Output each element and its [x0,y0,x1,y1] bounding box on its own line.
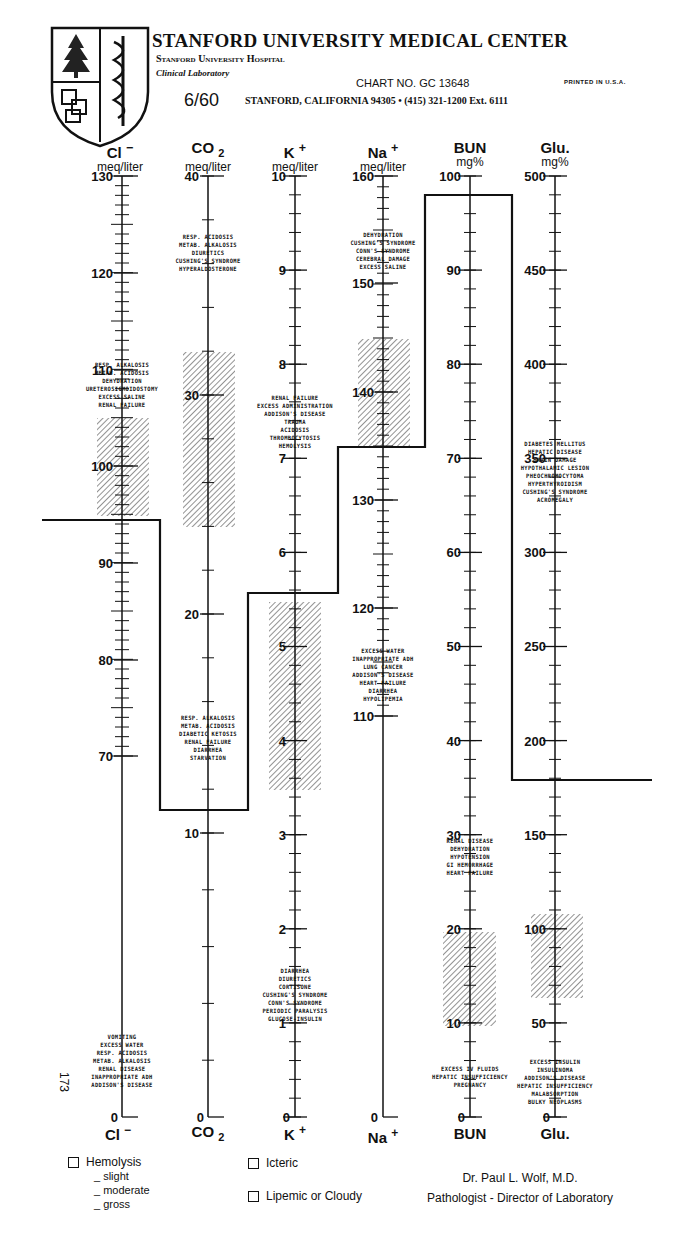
svg-text:100: 100 [524,922,546,937]
svg-text:500: 500 [524,169,546,184]
svg-text:50: 50 [447,639,461,654]
svg-text:40: 40 [447,734,461,749]
svg-text:50: 50 [532,1016,546,1031]
svg-text:200: 200 [524,734,546,749]
lipemic-option: Lipemic or Cloudy [248,1189,362,1203]
svg-text:150: 150 [352,276,374,291]
svg-text:250: 250 [524,639,546,654]
svg-text:110: 110 [353,709,374,724]
svg-text:70: 70 [447,451,461,466]
svg-text:400: 400 [524,357,546,372]
k-low-causes: DIARRHEADIURETICSCORTISONE CUSHING'S SYN… [246,967,345,1023]
svg-text:20: 20 [447,922,461,937]
na-high-causes: DEHYDRATIONCUSHING'S SYNDROMECONN'S SYND… [343,231,424,271]
svg-text:4: 4 [279,734,287,749]
svg-text:100: 100 [439,169,461,184]
column-footer-glu: Glu. [515,1125,595,1142]
svg-text:160: 160 [352,169,374,184]
glu-low-causes: EXCESS INSULININSULINOMAADDISON'S DISEAS… [510,1058,600,1106]
hemolysis-label: Hemolysis [86,1155,141,1169]
svg-text:140: 140 [352,385,374,400]
svg-text:80: 80 [99,653,113,668]
svg-text:40: 40 [185,169,199,184]
svg-text:30: 30 [185,388,199,403]
svg-text:150: 150 [524,828,546,843]
svg-text:7: 7 [279,451,286,466]
doctor-name: Dr. Paul L. Wolf, M.D. [400,1168,640,1188]
svg-text:5: 5 [279,639,286,654]
svg-text:300: 300 [524,545,546,560]
lipemic-label: Lipemic or Cloudy [266,1189,362,1203]
svg-text:0: 0 [458,1110,465,1125]
svg-text:2: 2 [279,922,286,937]
bun-high-causes: RENAL DISEASEDEHYDRATIONHYPOTENSION GI H… [430,837,511,877]
svg-text:80: 80 [447,357,461,372]
svg-text:70: 70 [99,749,113,764]
column-footer-k: K + [255,1123,335,1143]
icteric-option: Icteric [248,1156,298,1170]
cl-axis-ticks [114,176,138,1117]
na-low-causes: EXCESS WATERINAPPROPRIATE ADHLUNG CANCER… [343,647,424,703]
co2-high-causes: RESP. ACIDOSISMETAB. ALKALOSISDIURETICS … [159,233,258,273]
doctor-title: Pathologist - Director of Laboratory [400,1188,640,1208]
svg-text:120: 120 [352,601,374,616]
svg-text:9: 9 [279,263,286,278]
svg-text:3: 3 [279,828,286,843]
icteric-checkbox[interactable] [248,1158,259,1169]
svg-text:10: 10 [447,1016,461,1031]
column-footer-co2: CO 2 [168,1123,248,1143]
svg-text:450: 450 [524,263,546,278]
side-number: 173 [57,1072,70,1092]
svg-text:0: 0 [543,1110,550,1125]
k-high-causes: RENAL FAILUREEXCESS ADMINISTRATIONADDISO… [246,394,345,450]
svg-text:60: 60 [447,545,461,560]
glu-high-causes: DIABETES MELLITUSHEPATIC DISEASEBRAIN DA… [510,440,600,504]
svg-text:10: 10 [272,169,286,184]
bun-low-causes: EXCESS IV FLUIDSHEPATIC INSUFFICIENCYPRE… [425,1065,515,1089]
hemolysis-slight[interactable]: _ slight [94,1169,150,1183]
icteric-label: Icteric [266,1156,298,1170]
hemolysis-gross[interactable]: _ gross [94,1197,150,1211]
co2-low-causes: RESP. ALKALOSISMETAB. ACIDOSISDIABETIC K… [163,714,253,762]
svg-text:8: 8 [279,357,286,372]
svg-text:10: 10 [185,826,199,841]
co2-normal-range [183,352,235,527]
svg-text:90: 90 [99,556,113,571]
cl-high-causes: RESP. ALKALOSISMETAB. ACIDOSISDEHYDRATIO… [68,361,176,409]
hemolysis-group: Hemolysis _ slight _ moderate _ gross [68,1155,150,1211]
hemolysis-checkbox[interactable] [68,1157,79,1168]
svg-text:0: 0 [371,1110,378,1125]
svg-text:6: 6 [279,545,286,560]
column-footer-bun: BUN [430,1125,510,1142]
svg-text:90: 90 [447,263,461,278]
lipemic-checkbox[interactable] [248,1191,259,1202]
svg-text:130: 130 [352,493,374,508]
column-footer-na: Na + [343,1126,423,1146]
svg-text:20: 20 [185,607,199,622]
signature-block: Dr. Paul L. Wolf, M.D. Pathologist - Dir… [400,1168,640,1208]
svg-text:100: 100 [91,459,113,474]
svg-text:130: 130 [91,169,113,184]
hemolysis-moderate[interactable]: _ moderate [94,1183,150,1197]
cl-low-causes: VOMITINGEXCESS WATERRESP. ACIDOSIS METAB… [68,1033,176,1089]
svg-text:120: 120 [91,266,113,281]
column-footer-cl: Cl − [78,1123,158,1143]
